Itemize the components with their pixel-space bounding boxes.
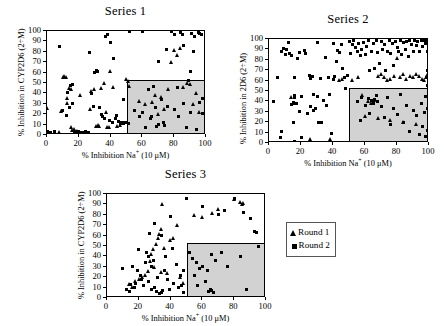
- square-marker: [292, 244, 297, 249]
- data-point-square: [182, 291, 185, 294]
- y-tick-mark: [103, 214, 106, 215]
- data-point-square: [421, 45, 424, 48]
- data-point-triangle: [64, 75, 68, 79]
- data-point-square: [112, 57, 115, 60]
- data-point-square: [320, 121, 323, 124]
- x-tick-mark: [205, 134, 206, 137]
- x-tick-mark: [141, 134, 142, 137]
- data-point-square: [257, 245, 260, 248]
- x-tick-label: 80: [161, 139, 185, 148]
- data-point-triangle: [160, 202, 164, 206]
- x-tick-mark: [46, 134, 47, 137]
- data-point-square: [71, 102, 74, 105]
- data-point-square: [139, 274, 142, 277]
- data-point-square: [106, 33, 109, 36]
- x-tick-mark: [265, 297, 266, 300]
- data-point-square: [389, 52, 392, 55]
- data-point-square: [365, 45, 368, 48]
- data-point-square: [357, 42, 360, 45]
- data-point-triangle: [104, 110, 108, 114]
- chart-title: Series 3: [106, 167, 265, 182]
- data-point-square: [375, 39, 378, 42]
- data-point-triangle: [99, 86, 103, 90]
- y-axis-title: % Inhibition in 2D6 (2÷M): [239, 53, 248, 144]
- data-point-square: [255, 231, 258, 234]
- y-tick-mark: [265, 90, 268, 91]
- data-point-square: [300, 136, 303, 139]
- data-point-square: [176, 86, 179, 89]
- data-point-square: [195, 261, 198, 264]
- data-point-square: [418, 50, 421, 53]
- data-point-square: [134, 282, 137, 285]
- data-point-square: [150, 265, 153, 268]
- data-point-square: [356, 50, 359, 53]
- data-point-triangle: [216, 207, 220, 211]
- data-point-square: [362, 41, 365, 44]
- data-point-square: [193, 274, 196, 277]
- y-tick-mark: [103, 203, 106, 204]
- x-tick-label: 100: [416, 147, 440, 156]
- data-point-square: [179, 274, 182, 277]
- data-point-square: [201, 205, 204, 208]
- data-point-square: [182, 44, 185, 47]
- data-point-square: [66, 91, 69, 94]
- data-point-square: [272, 100, 275, 103]
- data-point-square: [349, 52, 352, 55]
- data-point-triangle: [175, 223, 179, 227]
- data-point-triangle: [166, 87, 170, 91]
- data-point-square: [49, 131, 52, 134]
- data-point-triangle: [127, 84, 131, 88]
- data-point-square: [53, 130, 56, 133]
- data-point-square: [128, 290, 131, 293]
- data-point-triangle: [210, 211, 214, 215]
- data-point-square: [335, 60, 338, 63]
- data-point-triangle: [137, 99, 141, 103]
- data-point-square: [383, 43, 386, 46]
- data-point-square: [160, 234, 163, 237]
- data-point-triangle: [154, 242, 158, 246]
- x-tick-label: 40: [320, 147, 344, 156]
- legend: Round 1Round 2: [286, 222, 336, 257]
- data-point-triangle: [192, 213, 196, 217]
- data-point-square: [160, 98, 163, 101]
- data-point-square: [394, 40, 397, 43]
- x-tick-label: 100: [253, 302, 277, 311]
- data-point-square: [324, 56, 327, 59]
- data-point-triangle: [102, 81, 106, 85]
- data-point-triangle: [388, 118, 392, 122]
- data-point-triangle: [162, 246, 166, 250]
- data-point-square: [415, 44, 418, 47]
- data-point-triangle: [241, 201, 245, 205]
- y-tick-mark: [103, 266, 106, 267]
- data-point-square: [360, 48, 363, 51]
- data-point-square: [428, 77, 429, 80]
- data-point-square: [172, 282, 175, 285]
- data-point-square: [327, 76, 330, 79]
- data-point-square: [65, 114, 68, 117]
- data-point-square: [322, 99, 325, 102]
- data-point-square: [90, 92, 93, 95]
- x-tick-label: 20: [126, 302, 150, 311]
- x-tick-mark: [201, 297, 202, 300]
- data-point-square: [285, 48, 288, 51]
- data-point-square: [375, 94, 378, 97]
- y-tick-mark: [265, 69, 268, 70]
- data-point-square: [138, 115, 141, 118]
- data-point-square: [298, 110, 301, 113]
- data-point-square: [133, 286, 136, 289]
- data-point-square: [61, 109, 64, 112]
- data-point-triangle: [194, 91, 198, 95]
- x-tick-label: 60: [352, 147, 376, 156]
- y-tick-mark: [265, 38, 268, 39]
- data-point-square: [298, 51, 301, 54]
- data-point-square: [354, 46, 357, 49]
- data-point-square: [304, 52, 307, 55]
- data-point-square: [98, 106, 101, 109]
- data-point-square: [368, 69, 371, 72]
- data-point-square: [396, 46, 399, 49]
- y-tick-mark: [265, 100, 268, 101]
- y-tick-mark: [43, 124, 46, 125]
- plot-area: [46, 30, 205, 134]
- data-point-square: [210, 253, 213, 256]
- data-point-square: [424, 135, 427, 138]
